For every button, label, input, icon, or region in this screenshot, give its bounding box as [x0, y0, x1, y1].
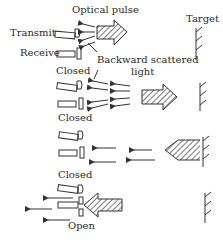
backward-scattered-label: Backward scattered: [97, 55, 199, 65]
receive-label: Receive: [20, 48, 60, 58]
panel-3: [59, 131, 209, 167]
panel-2: [57, 81, 206, 111]
optical-pulse-label: Optical pulse: [72, 5, 139, 15]
backward-scattered-light-label: light: [131, 67, 154, 77]
panel-4: [30, 185, 211, 223]
closed-label-3: Closed: [58, 170, 92, 180]
transmitter-icon: [55, 31, 75, 39]
open-label: Open: [68, 221, 95, 231]
closed-label-1: Closed: [56, 66, 90, 76]
closed-label-2: Closed: [58, 113, 92, 123]
shutter-open-top: [79, 197, 83, 204]
transmit-label: Transmit: [10, 28, 56, 38]
transmitter-lens-icon: [75, 29, 80, 37]
shutter-open-bottom: [79, 209, 83, 216]
optical-pulse-arrow: [97, 20, 127, 45]
shutter-icon: [77, 48, 81, 59]
target-label: Target: [186, 14, 219, 24]
